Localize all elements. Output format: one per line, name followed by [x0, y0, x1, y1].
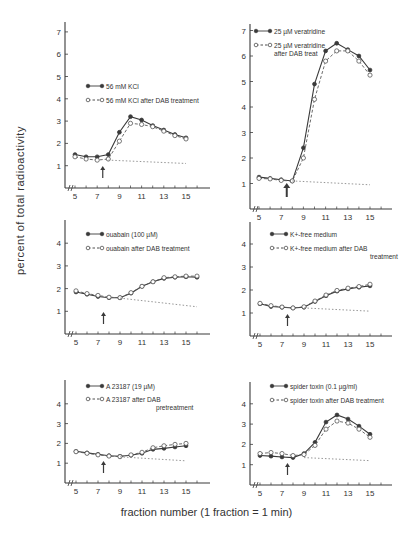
y-tick-label: 5 [242, 78, 247, 87]
panel-veratridine: 123456757911131525 µM veratridine25 µM v… [242, 24, 392, 222]
data-point-open [258, 451, 262, 455]
data-point-open [368, 282, 372, 286]
data-point-filled [357, 54, 361, 58]
data-point-open [73, 155, 77, 159]
y-tick-label: 1 [57, 459, 62, 468]
legend-label: 25 µM veratridine [274, 28, 325, 36]
legend: 25 µM veratridine25 µM veratridineafter … [254, 28, 325, 58]
x-tick-label: 13 [344, 489, 353, 498]
x-tick-label: 7 [96, 487, 101, 496]
y-tick-label: 7 [242, 27, 247, 36]
data-point-open [268, 177, 272, 181]
legend-label-cont: after DAB treat [274, 50, 318, 57]
data-point-open [346, 49, 350, 53]
y-tick-label: 3 [242, 263, 247, 272]
x-tick-label: 15 [182, 192, 191, 201]
data-point-open [151, 125, 155, 129]
data-point-open [302, 452, 306, 456]
x-tick-label: 9 [301, 213, 306, 222]
data-point-open [279, 178, 283, 182]
y-tick-label: 4 [242, 240, 247, 249]
y-axis-label: percent of total radioactivity [14, 126, 26, 275]
data-point-open [368, 73, 372, 77]
x-tick-label: 7 [95, 192, 100, 201]
x-tick-label: 7 [280, 340, 285, 349]
legend-label-cont: treatment [370, 253, 398, 260]
data-point-open [151, 446, 155, 450]
data-point-open [280, 305, 284, 309]
legend-label: A 23187 after DAB [106, 396, 161, 403]
data-point-open [74, 289, 78, 293]
legend-label: 56 mM KCl after DAB treatment [106, 97, 199, 104]
data-point-filled [346, 417, 350, 421]
data-point-open [128, 121, 132, 125]
y-tick-label: 6 [57, 50, 62, 59]
data-point-filled [335, 413, 339, 417]
data-point-filled [140, 118, 144, 122]
legend-label: spider toxin after DAB treatment [290, 397, 384, 405]
x-tick-label: 5 [74, 338, 79, 347]
panel-spider-toxin: 1234579111315spider toxin (0.1 µg/ml)spi… [242, 382, 392, 498]
panel-ouabain: 1234579111315ouabain (100 µM)ouabain aft… [57, 220, 210, 347]
data-point-open [117, 139, 121, 143]
x-tick-label: 11 [322, 340, 331, 349]
series-line-dab [76, 276, 197, 298]
series-line-dab [75, 123, 186, 160]
series-line-dab [259, 51, 370, 181]
y-tick-label: 4 [242, 400, 247, 409]
x-tick-label: 9 [118, 338, 123, 347]
data-point-open [184, 137, 188, 141]
baseline-line [304, 458, 370, 461]
data-point-open [162, 129, 166, 133]
baseline-line [292, 181, 370, 185]
x-tick-label: 13 [160, 338, 169, 347]
y-tick-label: 3 [57, 420, 62, 429]
legend: 56 mM KCl56 mM KCl after DAB treatment [86, 83, 199, 104]
data-point-open [312, 97, 316, 101]
y-tick-label: 3 [57, 262, 62, 271]
x-tick-label: 13 [344, 340, 353, 349]
x-tick-label: 15 [182, 338, 191, 347]
y-tick-label: 6 [242, 52, 247, 61]
y-tick-label: 2 [242, 154, 247, 163]
data-point-filled [106, 153, 110, 157]
legend-label: spider toxin (0.1 µg/ml) [290, 383, 357, 391]
x-tick-label: 5 [257, 213, 262, 222]
data-point-open [184, 441, 188, 445]
x-tick-label: 15 [366, 340, 375, 349]
figure-canvas: 123456757911131556 mM KCl56 mM KCl after… [0, 0, 413, 538]
data-point-open [107, 454, 111, 458]
data-point-filled [335, 41, 339, 45]
x-tick-label: 9 [302, 489, 307, 498]
data-point-open [280, 451, 284, 455]
data-point-filled [324, 49, 328, 53]
series-line-control [259, 43, 370, 181]
data-point-open [291, 453, 295, 457]
x-tick-label: 5 [74, 487, 79, 496]
x-tick-label: 5 [258, 489, 263, 498]
data-point-open [129, 291, 133, 295]
x-tick-label: 15 [366, 489, 375, 498]
data-point-open [85, 291, 89, 295]
x-tick-label: 11 [137, 192, 146, 201]
data-point-open [195, 274, 199, 278]
legend-label: A 23187 (19 µM) [106, 383, 155, 391]
x-tick-label: 7 [280, 489, 285, 498]
y-tick-label: 2 [242, 440, 247, 449]
data-point-open [162, 444, 166, 448]
data-point-open [346, 421, 350, 425]
data-point-open [257, 176, 261, 180]
legend: spider toxin (0.1 µg/ml)spider toxin aft… [270, 383, 384, 405]
y-tick-label: 1 [242, 180, 247, 189]
x-tick-label: 9 [302, 340, 307, 349]
data-point-open [313, 299, 317, 303]
series-line-control [260, 415, 370, 458]
x-tick-label: 5 [258, 340, 263, 349]
y-tick-label: 4 [57, 239, 62, 248]
data-point-open [301, 156, 305, 160]
data-point-open [346, 286, 350, 290]
y-tick-label: 2 [242, 286, 247, 295]
legend-label: K+-free medium after DAB [290, 245, 368, 252]
data-point-open [173, 275, 177, 279]
baseline-line [304, 308, 370, 311]
